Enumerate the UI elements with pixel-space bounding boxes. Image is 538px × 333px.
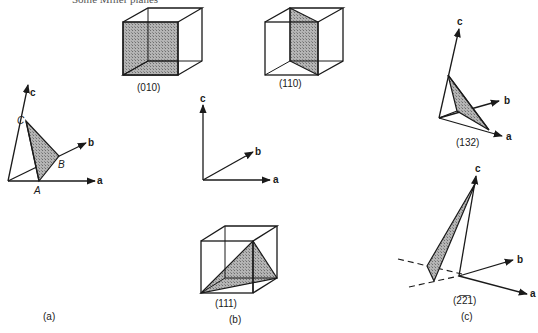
panel-c: c b a (132) c b a (2̅2̅1) (c) — [398, 16, 536, 322]
panel-b: (010) (110) c b a — [123, 8, 343, 325]
axis-a-label: a — [530, 288, 536, 299]
axis-a — [459, 276, 527, 294]
cube-110: (110) — [265, 8, 343, 89]
cube-010: (010) — [123, 8, 202, 93]
point-a-label: A — [33, 185, 41, 196]
panel-a-caption: (a) — [43, 311, 55, 322]
plane-221-label: (2̅2̅1) — [453, 295, 476, 306]
axis-b-label: b — [504, 95, 510, 106]
point-b-label: B — [58, 159, 65, 170]
axis-c — [459, 176, 476, 276]
axis-b — [203, 152, 253, 180]
plane-111-label: (111) — [215, 298, 237, 309]
axes-b: c b a — [200, 93, 279, 185]
plane-010-label: (010) — [137, 82, 160, 93]
cube-111: (111) — [201, 226, 277, 309]
axis-b-label: b — [88, 137, 94, 148]
axis-c-label: c — [200, 93, 206, 104]
plane-132-label: (132) — [456, 137, 479, 148]
axis-a-label: a — [273, 174, 279, 185]
point-c-label: C — [17, 115, 25, 126]
panel-b-caption: (b) — [229, 314, 241, 325]
axis-a-label: a — [97, 175, 103, 186]
axis-a — [439, 118, 502, 136]
panel-a: c b a C B A (a) — [8, 85, 103, 322]
axis-c-label: c — [457, 16, 463, 27]
axis-b — [459, 260, 513, 276]
axis-b-label: b — [517, 254, 523, 265]
miller-planes-figure: c b a C B A (a) (010) (110) — [0, 0, 538, 333]
axis-c-label: c — [30, 87, 36, 98]
axis-b-label: b — [255, 146, 261, 157]
plane-110-label: (110) — [279, 78, 302, 89]
plane-132-diagram: c b a (132) — [439, 16, 512, 148]
axis-c-label: c — [475, 163, 481, 174]
plane-221-diagram: c b a (2̅2̅1) — [398, 163, 536, 306]
panel-c-caption: (c) — [461, 311, 473, 322]
plane-abc — [26, 121, 59, 181]
axis-c — [8, 85, 28, 181]
axis-a-label: a — [506, 131, 512, 142]
